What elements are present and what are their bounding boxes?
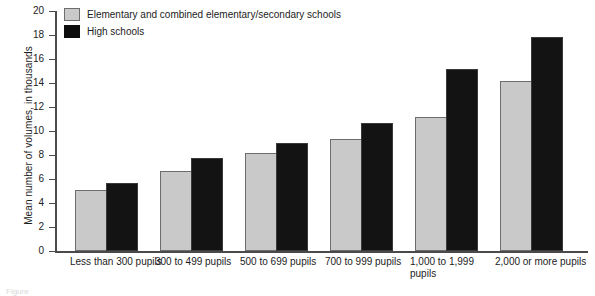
bar-high-school <box>531 37 563 251</box>
legend-item: Elementary and combined elementary/secon… <box>64 7 341 21</box>
y-tick-label-2: 2 <box>20 222 44 232</box>
y-tick-label-20: 20 <box>20 6 44 16</box>
bar-group <box>232 11 317 251</box>
bar-chart-figure: Mean number of volumes, in thousands 201… <box>0 0 595 296</box>
category-label: Less than 300 pupils <box>70 256 162 268</box>
y-tick-label-12: 12 <box>20 102 44 112</box>
figure-caption: Figure <box>6 287 29 296</box>
bar-high-school <box>106 183 138 251</box>
y-tick-10 <box>49 131 56 132</box>
legend-swatch-light <box>64 8 80 21</box>
chart-legend: Elementary and combined elementary/secon… <box>64 7 341 41</box>
bar-group <box>317 11 402 251</box>
y-tick-label-8: 8 <box>20 150 44 160</box>
bar-group <box>487 11 572 251</box>
y-tick-8 <box>49 155 56 156</box>
bar-high-school <box>276 143 308 251</box>
bar-high-school <box>361 123 393 251</box>
y-tick-label-6: 6 <box>20 174 44 184</box>
bar-elementary <box>415 117 447 251</box>
y-tick-20 <box>49 11 56 12</box>
y-tick-14 <box>49 83 56 84</box>
category-label: 700 to 999 pupils <box>325 256 417 268</box>
bar-group <box>147 11 232 251</box>
y-tick-2 <box>49 227 56 228</box>
y-tick-label-18: 18 <box>20 30 44 40</box>
legend-label: High schools <box>87 26 144 37</box>
bar-elementary <box>500 81 532 251</box>
category-label: 300 to 499 pupils <box>155 256 247 268</box>
y-tick-label-4: 4 <box>20 198 44 208</box>
y-tick-0 <box>49 251 56 252</box>
bar-high-school <box>446 69 478 251</box>
bar-elementary <box>245 153 277 251</box>
bar-elementary <box>75 190 107 251</box>
category-label: 1,000 to 1,999 pupils <box>410 256 502 279</box>
bar-elementary <box>160 171 192 251</box>
bar-group <box>402 11 487 251</box>
y-tick-12 <box>49 107 56 108</box>
legend-swatch-dark <box>64 25 80 38</box>
y-tick-16 <box>49 59 56 60</box>
legend-item: High schools <box>64 24 341 38</box>
y-tick-6 <box>49 179 56 180</box>
y-tick-label-14: 14 <box>20 78 44 88</box>
y-tick-label-16: 16 <box>20 54 44 64</box>
y-tick-4 <box>49 203 56 204</box>
legend-label: Elementary and combined elementary/secon… <box>87 9 341 20</box>
y-tick-label-10: 10 <box>20 126 44 136</box>
y-tick-label-0: 0 <box>20 246 44 256</box>
bar-high-school <box>191 158 223 251</box>
y-tick-18 <box>49 35 56 36</box>
category-label: 2,000 or more pupils <box>495 256 587 268</box>
category-label: 500 to 699 pupils <box>240 256 332 268</box>
x-axis-baseline <box>55 251 588 253</box>
bar-group <box>62 11 147 251</box>
bar-elementary <box>330 139 362 251</box>
